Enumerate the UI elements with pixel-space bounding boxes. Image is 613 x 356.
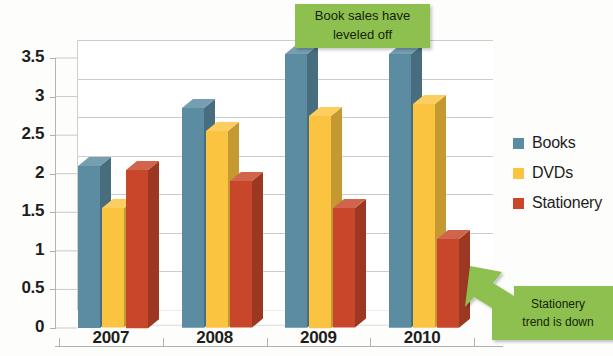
bar-stationery-2008[interactable] — [230, 181, 252, 328]
callout-stationery-trend[interactable]: Stationery trend is down — [452, 262, 613, 356]
legend-item-dvds[interactable]: DVDs — [513, 158, 602, 188]
plot-area — [55, 40, 492, 328]
x-axis-label: 2008 — [163, 328, 267, 348]
legend-label-dvds: DVDs — [532, 164, 573, 182]
callout-stationery-line2: trend is down — [522, 315, 593, 329]
bar-3d-shape — [126, 161, 161, 330]
x-axis-label: 2009 — [267, 328, 371, 348]
legend-swatch-dvds — [513, 168, 524, 179]
x-axis-label: 2007 — [59, 328, 163, 348]
y-axis-label: 0.5 — [22, 278, 44, 298]
bar-series-container — [55, 40, 492, 328]
y-axis-tick — [50, 328, 56, 329]
bar-stationery-2009[interactable] — [333, 208, 355, 328]
callout-book-sales-line2: leveled off — [333, 27, 392, 42]
bar-3d-shape — [333, 199, 368, 330]
callout-book-sales[interactable]: Book sales have leveled off — [295, 4, 430, 48]
y-axis-label: 0 — [35, 317, 44, 337]
bar-books-2007[interactable] — [78, 166, 100, 328]
legend-item-stationery[interactable]: Stationery — [513, 188, 602, 218]
bar-dvds-2008[interactable] — [206, 131, 228, 328]
callout-stationery-line1: Stationery — [531, 297, 585, 311]
bar-books-2008[interactable] — [182, 108, 204, 328]
legend-label-stationery: Stationery — [532, 194, 602, 212]
y-axis-label: 2.5 — [22, 124, 44, 144]
y-axis-label: 1.5 — [22, 201, 44, 221]
chart-legend: Books DVDs Stationery — [513, 128, 602, 218]
callout-book-sales-line1: Book sales have — [315, 8, 410, 23]
bar-dvds-2010[interactable] — [413, 104, 435, 328]
y-axis-label: 3.5 — [22, 47, 44, 67]
bar-stationery-2007[interactable] — [126, 170, 148, 328]
y-axis-label: 2 — [35, 163, 44, 183]
bar-books-2009[interactable] — [285, 54, 307, 328]
y-axis-label: 3 — [35, 86, 44, 106]
bar-3d-shape — [230, 172, 265, 330]
bar-dvds-2007[interactable] — [102, 208, 124, 328]
chart-screenshot: 00.511.522.533.5 2007200820092010 Books … — [0, 0, 613, 356]
y-axis-label: 1 — [35, 240, 44, 260]
legend-swatch-books — [513, 138, 524, 149]
bar-books-2010[interactable] — [389, 54, 411, 328]
legend-swatch-stationery — [513, 198, 524, 209]
legend-label-books: Books — [532, 134, 575, 152]
callout-stationery-trend-text: Stationery trend is down — [504, 295, 612, 331]
bar-dvds-2009[interactable] — [309, 116, 331, 328]
legend-item-books[interactable]: Books — [513, 128, 602, 158]
